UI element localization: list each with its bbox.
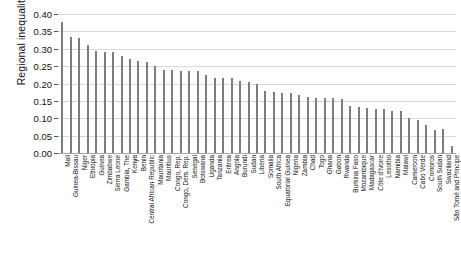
- y-tick-mark: [54, 49, 58, 50]
- x-tick-label: Togo: [319, 155, 326, 169]
- x-tick-label: Côte d'Ivoire: [378, 155, 385, 191]
- x-tick-label: Guinea: [99, 155, 106, 176]
- x-tick-label: Senegal: [192, 155, 199, 178]
- y-tick-label: 0.05: [22, 130, 52, 141]
- x-axis-tick-labels: MaliGuinea-BissauNigerEthiopiaGuineaZimb…: [58, 155, 456, 261]
- x-tick-label: Namibia: [395, 155, 402, 178]
- y-tick-mark: [54, 31, 58, 32]
- x-tick-label: Central African Republic: [149, 155, 156, 224]
- x-tick-label: Mozambique: [361, 155, 368, 192]
- x-tick-label: Comoros: [429, 155, 436, 181]
- y-tick-mark: [54, 66, 58, 67]
- x-tick-label: Benin: [141, 155, 148, 171]
- x-tick-label: Congo, Dem. Rep.: [183, 155, 190, 208]
- y-tick-label: 0.25: [22, 61, 52, 72]
- y-tick-mark: [54, 101, 58, 102]
- x-tick-label: Rwanda: [344, 155, 351, 178]
- x-tick-label: Cameroon: [412, 155, 419, 185]
- x-tick-label: Malawi: [403, 155, 410, 175]
- x-tick-label: South Africa: [276, 155, 283, 189]
- x-tick-label: Uganda: [209, 155, 216, 177]
- y-tick-label: 0.20: [22, 78, 52, 89]
- x-tick-label: South Sudan: [437, 155, 444, 192]
- x-tick-label: Angola: [234, 155, 241, 175]
- x-tick-label: Madagascar: [369, 155, 376, 190]
- y-tick-mark: [54, 153, 58, 154]
- x-tick-label: Nigeria: [293, 155, 300, 175]
- x-tick-label: Niger: [82, 155, 89, 170]
- x-tick-label: Mali: [65, 155, 72, 167]
- x-tick-label: Ethiopia: [90, 155, 97, 178]
- y-axis-ticks: 0.000.050.100.150.200.250.300.350.40: [58, 14, 456, 153]
- x-tick-label: Burkina Faso: [353, 155, 360, 193]
- x-tick-label: Sierra Leone: [115, 155, 122, 192]
- x-tick-label: Burundi: [242, 155, 249, 177]
- x-tick-label: Ghana: [327, 155, 334, 174]
- x-tick-label: Sudan: [251, 155, 258, 173]
- x-tick-label: Cabo Verde: [420, 155, 427, 189]
- x-tick-label: Guinea-Bissau: [73, 155, 80, 197]
- x-tick-label: Chad: [310, 155, 317, 170]
- x-tick-label: Gambia, The: [124, 155, 131, 192]
- y-tick-mark: [54, 84, 58, 85]
- y-tick-label: 0.40: [22, 9, 52, 20]
- x-tick-label: Congo, Rep.: [175, 155, 182, 191]
- y-tick-label: 0.00: [22, 148, 52, 159]
- regional-inequality-bar-chart: Regional inequality 0.000.050.100.150.20…: [0, 0, 461, 263]
- x-tick-label: São Tomé and Principe: [454, 155, 461, 221]
- x-tick-label: Lesotho: [386, 155, 393, 178]
- x-tick-label: Mauritius: [166, 155, 173, 181]
- x-tick-label: Equatorial Guinea: [285, 155, 292, 206]
- x-tick-label: Mauritania: [158, 155, 165, 185]
- x-tick-label: Swaziland: [446, 155, 453, 184]
- y-tick-label: 0.30: [22, 43, 52, 54]
- x-tick-label: Kenya: [132, 155, 139, 173]
- x-tick-label: Somalia: [268, 155, 275, 178]
- x-tick-label: Zambia: [302, 155, 309, 176]
- x-tick-label: Eritrea: [226, 155, 233, 174]
- y-tick-label: 0.10: [22, 113, 52, 124]
- y-tick-mark: [54, 14, 58, 15]
- y-tick-label: 0.35: [22, 26, 52, 37]
- x-tick-label: Liberia: [259, 155, 266, 174]
- y-tick-mark: [54, 136, 58, 137]
- x-tick-label: Zimbabwe: [107, 155, 114, 184]
- x-tick-label: Tanzania: [217, 155, 224, 181]
- y-tick-mark: [54, 118, 58, 119]
- x-tick-label: Botswana: [200, 155, 207, 183]
- x-tick-label: Gabon: [336, 155, 343, 174]
- y-tick-label: 0.15: [22, 95, 52, 106]
